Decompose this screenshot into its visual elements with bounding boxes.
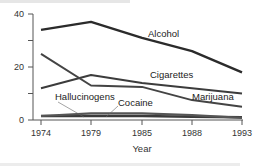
y-axis: 40 20 0 xyxy=(14,9,33,125)
series-label-hallucinogens: Hallucinogens xyxy=(55,91,115,102)
series-line-alcohol xyxy=(41,22,242,72)
series-label-cocaine: Cocaine xyxy=(118,97,153,108)
y-tick-0: 0 xyxy=(19,115,24,125)
x-tick-1993: 1993 xyxy=(232,128,252,138)
x-axis-title: Year xyxy=(132,143,151,154)
y-tick-20: 20 xyxy=(14,62,24,72)
line-chart: 40 20 0 1974 1979 1985 1988 1993 Year Al… xyxy=(0,0,259,166)
x-tick-1974: 1974 xyxy=(31,128,51,138)
y-tick-40: 40 xyxy=(14,9,24,19)
x-tick-1985: 1985 xyxy=(132,128,152,138)
x-tick-1979: 1979 xyxy=(81,128,101,138)
series-label-marijuana: Marijuana xyxy=(192,91,234,102)
x-tick-1988: 1988 xyxy=(182,128,202,138)
series-label-alcohol: Alcohol xyxy=(148,28,179,39)
x-axis: 1974 1979 1985 1988 1993 Year xyxy=(31,120,252,154)
series-label-cigarettes: Cigarettes xyxy=(150,69,194,80)
cropped-caption-bottom xyxy=(0,163,240,166)
cropped-caption-top xyxy=(0,0,130,3)
